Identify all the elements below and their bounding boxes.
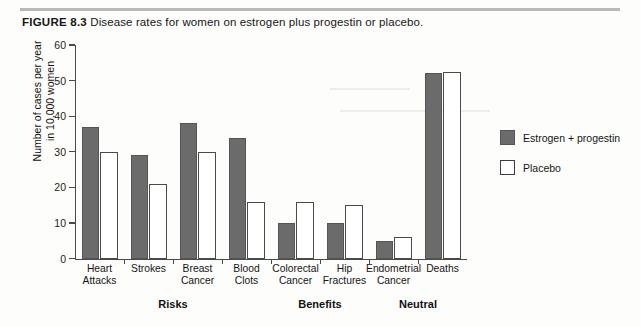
bar-placebo-2 — [198, 152, 216, 259]
y-tick-label-wrap-30: 30 — [47, 152, 66, 153]
y-tick-20 — [69, 187, 75, 188]
bar-treatment-3 — [229, 138, 247, 259]
bar-placebo-5 — [345, 205, 363, 258]
bar-treatment-7 — [425, 73, 443, 258]
bar-placebo-1 — [149, 184, 167, 259]
category-label-7: Deaths — [412, 263, 473, 275]
y-tick-label-wrap-0: 0 — [47, 259, 66, 260]
group-label-neutral: Neutral — [369, 298, 467, 310]
y-tick-60 — [69, 44, 75, 45]
y-tick-label-20: 20 — [54, 181, 66, 193]
legend-swatch-placebo-icon — [500, 160, 515, 175]
y-tick-label-60: 60 — [54, 39, 66, 51]
y-tick-label-40: 40 — [54, 110, 66, 122]
figure-page: FIGURE 8.3 Disease rates for women on es… — [0, 0, 641, 326]
bar-placebo-6 — [394, 237, 412, 258]
bar-treatment-0 — [82, 127, 100, 259]
group-label-benefits: Benefits — [271, 298, 369, 310]
y-tick-label-0: 0 — [60, 253, 66, 265]
bar-placebo-7 — [443, 72, 461, 259]
y-tick-label-wrap-40: 40 — [47, 116, 66, 117]
bar-treatment-5 — [327, 223, 345, 259]
y-tick-30 — [69, 151, 75, 152]
y-axis-title-line2: in 10,000 women — [44, 11, 57, 191]
legend-item-placebo[interactable]: Placebo — [500, 160, 561, 175]
y-tick-label-30: 30 — [54, 146, 66, 158]
legend-item-treatment[interactable]: Estrogen + progestin — [500, 130, 620, 145]
bar-placebo-4 — [296, 202, 314, 259]
y-tick-40 — [69, 116, 75, 117]
bar-placebo-3 — [247, 202, 265, 259]
legend-swatch-treatment-icon — [500, 130, 515, 145]
y-tick-label-wrap-50: 50 — [47, 81, 66, 82]
y-axis-line — [75, 45, 76, 259]
y-tick-10 — [69, 222, 75, 223]
bar-treatment-2 — [180, 123, 198, 258]
y-tick-0 — [69, 258, 75, 259]
y-axis-title-line1: Number of cases per year — [31, 11, 44, 191]
y-tick-label-10: 10 — [54, 217, 66, 229]
y-tick-label-wrap-60: 60 — [47, 45, 66, 46]
y-tick-50 — [69, 80, 75, 81]
y-axis-title: Number of cases per year in 10,000 women — [31, 11, 57, 191]
bar-treatment-1 — [131, 155, 149, 258]
legend-label-0: Estrogen + progestin — [523, 132, 620, 144]
legend-label-1: Placebo — [523, 162, 561, 174]
bar-placebo-0 — [100, 152, 118, 259]
y-tick-label-50: 50 — [54, 75, 66, 87]
bar-treatment-6 — [376, 241, 394, 259]
y-tick-label-wrap-20: 20 — [47, 187, 66, 188]
y-tick-label-wrap-10: 10 — [47, 223, 66, 224]
group-label-risks: Risks — [75, 298, 271, 310]
bar-chart: Number of cases per year in 10,000 women… — [0, 0, 641, 326]
bar-treatment-4 — [278, 223, 296, 259]
